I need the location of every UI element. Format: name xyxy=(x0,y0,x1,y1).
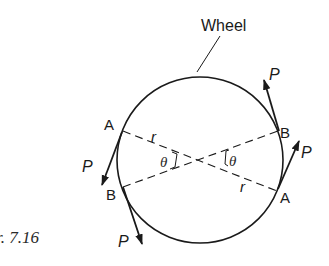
force-label-upper-left: P xyxy=(82,158,93,175)
force-label-upper-right: P xyxy=(269,66,280,83)
angle-marker-left xyxy=(170,152,177,169)
point-b-lower-left: B xyxy=(106,186,116,203)
theta-label-right: θ xyxy=(229,153,237,169)
point-a-upper-left: A xyxy=(104,116,114,133)
force-arrow-upper-right xyxy=(264,80,279,131)
wheel-leader-line xyxy=(197,36,220,72)
force-label-lower-left: P xyxy=(118,233,129,250)
wheel-circle xyxy=(117,77,283,243)
wheel-label: Wheel xyxy=(201,17,246,34)
diameter-b-b xyxy=(123,131,278,187)
point-b-upper-right: B xyxy=(280,124,290,141)
theta-label-left: θ xyxy=(160,154,168,170)
force-arrow-lower-right xyxy=(278,141,299,189)
radius-label-upper: r xyxy=(151,128,157,145)
point-a-lower-right: A xyxy=(280,189,290,206)
diameter-a-a xyxy=(123,131,277,191)
wheel-diagram: Wheel θ θ r r A B B A P P P P r. 7.16 xyxy=(0,0,329,266)
figure-caption: r. 7.16 xyxy=(0,228,39,247)
radius-label-lower: r xyxy=(240,178,246,195)
force-label-lower-right: P xyxy=(301,144,312,161)
